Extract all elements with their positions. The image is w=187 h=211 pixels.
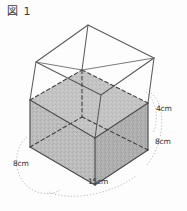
dimension-label-side-width: 8cm <box>13 159 29 168</box>
edge-right-vertical <box>148 58 154 103</box>
edge-left-vertical <box>30 62 36 100</box>
box-diagram-svg: 4cm 8cm 8cm 15cm <box>0 0 187 211</box>
box-interior-edges <box>36 58 154 70</box>
dimension-label-base-length: 15cm <box>88 177 108 186</box>
dimension-label-fill-depth: 8cm <box>155 137 171 146</box>
edge-back-vertical <box>82 25 88 70</box>
dimension-label-top-gap: 4cm <box>156 104 172 113</box>
figure-container: 図 1 <box>0 0 187 211</box>
interior-edge-right <box>82 58 154 70</box>
